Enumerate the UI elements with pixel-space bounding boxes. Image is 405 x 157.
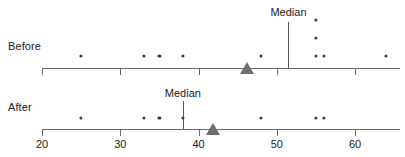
x-axis-tick: [120, 130, 121, 136]
data-point: [181, 54, 184, 57]
dotplot-figure: Before Median After Median 2030405060: [0, 0, 405, 157]
x-axis-tick: [120, 69, 121, 75]
x-axis-tick: [42, 130, 43, 136]
x-axis-tick: [199, 69, 200, 75]
x-axis-tick-label: 60: [349, 138, 361, 150]
x-axis-tick: [277, 130, 278, 136]
x-axis-tick: [42, 69, 43, 75]
axis-line-after: [42, 129, 400, 130]
data-point: [322, 54, 325, 57]
mean-marker-after: [206, 123, 220, 135]
x-axis-tick: [355, 130, 356, 136]
data-point: [314, 54, 317, 57]
data-point: [80, 54, 83, 57]
mean-marker-before: [240, 62, 254, 74]
median-label-after: Median: [165, 87, 201, 99]
x-axis-tick-label: 50: [271, 138, 283, 150]
x-axis-tick: [199, 130, 200, 136]
data-point: [158, 116, 161, 119]
x-axis-tick: [277, 69, 278, 75]
data-point: [181, 116, 184, 119]
median-line-after: [183, 101, 184, 129]
data-point: [158, 54, 161, 57]
x-axis-tick-label: 20: [36, 138, 48, 150]
data-point: [142, 54, 145, 57]
data-point: [80, 116, 83, 119]
x-axis-tick-label: 30: [114, 138, 126, 150]
median-label-before: Median: [270, 6, 306, 18]
data-point: [314, 18, 317, 21]
row-label-after: After: [8, 101, 32, 113]
median-line-before: [288, 22, 289, 68]
data-point: [322, 116, 325, 119]
data-point: [314, 116, 317, 119]
axis-line-before: [42, 68, 400, 69]
row-label-before: Before: [8, 40, 41, 52]
x-axis-tick-label: 40: [192, 138, 204, 150]
data-point: [314, 36, 317, 39]
data-point: [260, 54, 263, 57]
data-point: [385, 54, 388, 57]
x-axis-tick: [355, 69, 356, 75]
data-point: [142, 116, 145, 119]
data-point: [260, 116, 263, 119]
